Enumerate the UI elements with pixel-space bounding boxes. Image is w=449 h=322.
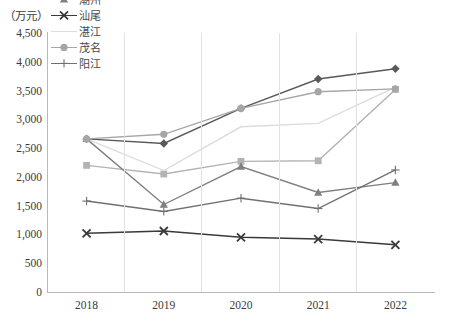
x-axis-line xyxy=(47,292,435,293)
x-axis-tick-label: 2022 xyxy=(365,299,425,311)
data-point-marker xyxy=(160,171,167,178)
x-axis-tick-label: 2018 xyxy=(57,299,117,311)
data-point-marker xyxy=(314,75,322,83)
data-point-marker xyxy=(391,166,399,174)
legend-marker-icon xyxy=(51,0,77,5)
data-point-marker xyxy=(83,162,90,169)
grid-line-vertical xyxy=(124,33,125,292)
series-line xyxy=(87,170,396,211)
y-axis-tick-label: 4,000 xyxy=(0,56,42,68)
y-axis-tick-label: 500 xyxy=(0,257,42,269)
legend-swatch-icon xyxy=(51,0,77,4)
series-茂名 xyxy=(83,85,399,142)
y-axis-unit-label: （万元） xyxy=(4,7,48,23)
y-axis-tick-label: 4,500 xyxy=(0,27,42,39)
data-point-marker xyxy=(82,197,90,205)
legend-item-汕尾[interactable]: 汕尾 xyxy=(51,7,101,23)
series-阳江 xyxy=(82,166,399,216)
series-汕尾 xyxy=(83,227,400,249)
y-axis-tick-label: 3,500 xyxy=(0,85,42,97)
line-chart: （万元） 汕头揭阳潮州汕尾湛江茂名阳江 05001,0001,5002,0002… xyxy=(0,0,449,322)
data-point-marker xyxy=(315,157,322,164)
data-point-marker xyxy=(391,178,399,186)
data-point-marker xyxy=(237,194,245,202)
chart-legend: （万元） 汕头揭阳潮州汕尾湛江茂名阳江 xyxy=(0,4,449,26)
y-axis-tick-label: 1,500 xyxy=(0,200,42,212)
grid-line-vertical xyxy=(356,33,357,292)
data-point-marker xyxy=(60,0,68,3)
grid-line-vertical xyxy=(279,33,280,292)
x-axis-tick-label: 2020 xyxy=(211,299,271,311)
legend-label: 潮州 xyxy=(79,0,101,7)
data-point-marker xyxy=(392,85,399,92)
plot-area xyxy=(48,33,434,292)
data-point-marker xyxy=(160,207,168,215)
data-point-marker xyxy=(315,88,322,95)
data-point-marker xyxy=(60,11,68,19)
legend-swatch-icon xyxy=(51,10,77,20)
y-axis-tick-label: 1,000 xyxy=(0,228,42,240)
y-axis-tick-label: 2,500 xyxy=(0,142,42,154)
series-lines xyxy=(48,33,434,292)
legend-item-潮州[interactable]: 潮州 xyxy=(51,0,101,7)
y-axis-tick-label: 2,000 xyxy=(0,171,42,183)
y-axis-tick-label: 3,000 xyxy=(0,113,42,125)
x-axis-tick-label: 2019 xyxy=(134,299,194,311)
y-axis-tick-label: 0 xyxy=(0,286,42,298)
data-point-marker xyxy=(160,131,167,138)
legend-label: 汕尾 xyxy=(79,7,101,23)
data-point-marker xyxy=(314,204,322,212)
data-point-marker xyxy=(237,105,244,112)
x-axis-tick-label: 2021 xyxy=(288,299,348,311)
data-point-marker xyxy=(391,64,399,72)
legend-marker-icon xyxy=(51,10,77,21)
grid-line-vertical xyxy=(201,33,202,292)
data-point-marker xyxy=(160,139,168,147)
data-point-marker xyxy=(83,135,90,142)
